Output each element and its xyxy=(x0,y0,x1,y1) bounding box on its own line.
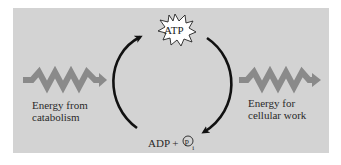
phosphate-subscript: i xyxy=(192,144,194,152)
phosphate-letter: P xyxy=(181,138,192,150)
zigzag-arrow-right-icon xyxy=(239,72,321,87)
arrow-to-adp-icon xyxy=(204,38,231,132)
energy-from-catabolism-label: Energy from catabolism xyxy=(32,99,88,123)
right-label-line2: cellular work xyxy=(248,109,306,121)
adp-pi-label: ADP + Pi xyxy=(148,137,194,154)
arrow-to-atp-icon xyxy=(113,37,140,128)
adp-text: ADP + xyxy=(148,137,181,149)
left-label-line2: catabolism xyxy=(32,111,88,123)
energy-for-cellular-work-label: Energy for cellular work xyxy=(248,97,306,121)
atp-label: ATP xyxy=(164,24,184,36)
right-label-line1: Energy for xyxy=(248,97,306,109)
zigzag-arrow-left-icon xyxy=(23,72,107,87)
left-label-line1: Energy from xyxy=(32,99,88,111)
